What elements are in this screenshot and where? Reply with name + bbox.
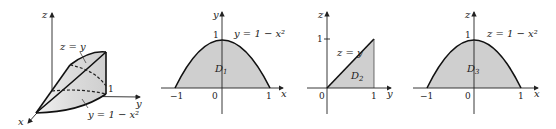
- tick-one-3d: 1: [108, 84, 114, 94]
- d3-tick-left: −1: [420, 91, 433, 101]
- d1-tick-origin: 0: [212, 91, 218, 101]
- d1-panel: x y 1 −1 0 1 y = 1 − x² D1: [161, 9, 287, 114]
- d3-x-label: x: [534, 88, 540, 99]
- d3-z-label: z: [464, 9, 471, 20]
- projection-figure: z y x z = y y = 1 − x² 1 x y: [0, 0, 556, 129]
- d2-panel: y z 1 0 1 z = y D2: [307, 9, 393, 114]
- d1-y-label: y: [212, 9, 219, 20]
- d2-curve-label: z = y: [336, 47, 363, 58]
- d2-y-label: y: [386, 88, 393, 99]
- d3-curve-label: z = 1 − x²: [486, 28, 538, 39]
- d1-tick-right: 1: [266, 91, 272, 101]
- d3-tick-top: 1: [465, 30, 471, 40]
- z-axis-label: z: [41, 9, 48, 20]
- d1-curve-label: y = 1 − x²: [233, 28, 285, 39]
- d3-tick-right: 1: [518, 91, 524, 101]
- d2-tick-top: 1: [317, 34, 323, 44]
- d2-tick-right: 1: [371, 91, 377, 101]
- d3-panel: x z 1 −1 0 1 z = 1 − x² D3: [413, 9, 540, 114]
- x-axis-label: x: [18, 116, 24, 127]
- d1-tick-top: 1: [213, 30, 219, 40]
- label-y-eq-1-x2: y = 1 − x²: [87, 109, 139, 120]
- label-z-eq-y: z = y: [59, 41, 86, 52]
- d1-x-label: x: [281, 88, 287, 99]
- d2-tick-origin: 0: [319, 91, 325, 101]
- y-axis-label: y: [135, 98, 142, 109]
- d3-tick-origin: 0: [465, 91, 471, 101]
- solid-3d-panel: z y x z = y y = 1 − x² 1: [18, 9, 142, 127]
- d2-z-label: z: [317, 9, 324, 20]
- d1-tick-left: −1: [170, 91, 183, 101]
